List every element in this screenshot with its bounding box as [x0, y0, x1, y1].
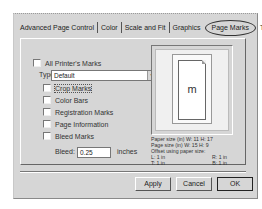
tab-advanced-page-control[interactable]: Advanced Page Control	[20, 22, 98, 33]
all-printers-marks-row[interactable]: All Printer's Marks	[33, 59, 101, 67]
tab-bar: Advanced Page Control Color Scale and Fi…	[20, 21, 262, 34]
page-marks-panel: All Printer's Marks Type: Default ▼ Crop…	[20, 38, 246, 165]
bleed-marks-row[interactable]: Bleed Marks	[43, 132, 94, 140]
tab-graphics[interactable]: Graphics	[170, 22, 204, 33]
registration-marks-checkbox[interactable]	[43, 108, 51, 116]
tab-trapping[interactable]: Trapping	[257, 22, 262, 33]
type-select-value: Default	[54, 72, 75, 79]
page-information-row[interactable]: Page Information	[43, 120, 108, 128]
preview-canvas: m	[155, 49, 229, 131]
bleed-label: Bleed:	[55, 148, 75, 155]
color-bars-row[interactable]: Color Bars	[43, 96, 88, 104]
bleed-marks-label: Bleed Marks	[55, 133, 94, 140]
page-glyph-icon: m	[179, 83, 205, 95]
tab-scale-and-fit[interactable]: Scale and Fit	[122, 22, 170, 33]
all-printers-marks-label: All Printer's Marks	[45, 60, 101, 67]
offset-tb: T: 1 in B: 1 in	[151, 160, 233, 166]
tab-page-marks[interactable]: Page Marks	[205, 20, 256, 36]
page-preview: m	[151, 45, 233, 135]
offset-bottom: B: 1 in	[212, 160, 227, 166]
registration-marks-row[interactable]: Registration Marks	[43, 108, 113, 116]
crop-marks-label: Crop Marks	[55, 85, 91, 92]
type-select[interactable]: Default ▼	[51, 70, 157, 81]
offset-top: T: 1 in	[151, 160, 165, 166]
page-fold-icon	[202, 60, 206, 64]
page-information-label: Page Information	[55, 121, 108, 128]
cancel-button[interactable]: Cancel	[176, 177, 212, 191]
print-dialog: Advanced Page Control Color Scale and Fi…	[13, 13, 258, 199]
bleed-unit-label: inches	[117, 148, 137, 155]
tab-color[interactable]: Color	[98, 22, 122, 33]
bleed-input[interactable]: 0.25	[77, 147, 111, 158]
apply-button[interactable]: Apply	[135, 177, 171, 191]
ok-button[interactable]: OK	[217, 177, 253, 191]
paper-outline: m	[172, 54, 212, 124]
crop-marks-checkbox[interactable]	[43, 84, 51, 92]
page-outline: m	[178, 60, 206, 120]
size-info: Paper size (in) W: 11 H: 17 Page size (i…	[151, 136, 233, 166]
color-bars-checkbox[interactable]	[43, 96, 51, 104]
page-information-checkbox[interactable]	[43, 120, 51, 128]
all-printers-marks-checkbox[interactable]	[33, 59, 41, 67]
crop-marks-row[interactable]: Crop Marks	[43, 84, 91, 92]
button-separator	[20, 171, 246, 173]
registration-marks-label: Registration Marks	[55, 109, 113, 116]
bleed-marks-checkbox[interactable]	[43, 132, 51, 140]
color-bars-label: Color Bars	[55, 97, 88, 104]
